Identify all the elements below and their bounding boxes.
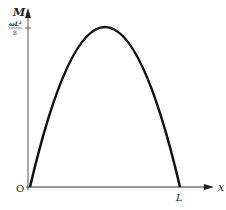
tick-denominator: 8 xyxy=(13,29,17,36)
tick-numerator: ωL² xyxy=(9,20,22,27)
y-axis-arrow-icon xyxy=(25,8,31,18)
x-end-label: L xyxy=(175,192,183,203)
x-axis-label: x xyxy=(218,181,225,194)
moment-curve xyxy=(30,27,180,187)
chart-svg: M x O L ωL² 8 xyxy=(0,0,226,210)
moment-diagram: M x O L ωL² 8 xyxy=(0,0,226,210)
y-axis-label: M xyxy=(12,6,26,19)
x-axis-arrow-icon xyxy=(204,184,214,190)
origin-label: O xyxy=(16,183,24,194)
